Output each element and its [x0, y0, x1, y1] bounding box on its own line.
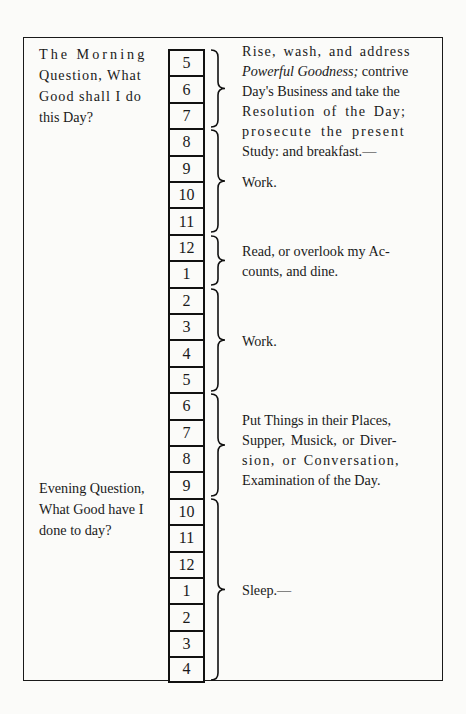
brace-icon [210, 498, 230, 681]
evening-question: Evening Question, What Good have I done … [39, 478, 164, 541]
hour-box: 12 [168, 551, 205, 577]
activity-line: contrive [358, 63, 408, 79]
hour-box: 6 [168, 392, 205, 418]
activity-line: Supper, Musick, or Diver- [242, 430, 435, 450]
morning-question-line: The Morning [39, 44, 157, 65]
bleed-through-text [20, 20, 446, 34]
hour-box: 12 [168, 234, 205, 260]
activity-line: Put Things in their Places, [242, 410, 435, 430]
hour-box: 3 [168, 313, 205, 339]
activity-line-italic: Powerful Goodness; [242, 63, 358, 79]
activity-line: Work. [242, 333, 277, 349]
hour-box: 10 [168, 181, 205, 207]
activity-line: Day's Business and take the [242, 81, 435, 101]
brace-icon [210, 393, 230, 497]
hour-box: 4 [168, 339, 205, 365]
brace-icon [210, 235, 230, 286]
hour-box: 4 [168, 656, 205, 682]
brace-icon [210, 288, 230, 392]
activity-line: Sleep.— [242, 582, 291, 598]
activity-morning: Rise, wash, and address Powerful Goodnes… [242, 41, 435, 161]
activity-line: Work. [242, 174, 277, 190]
activity-evening: Put Things in their Places, Supper, Musi… [242, 410, 435, 490]
activity-work-morning: Work. [242, 172, 435, 192]
hour-box: 3 [168, 630, 205, 656]
activity-line: Examination of the Day. [242, 470, 435, 490]
morning-question-line: this Day? [39, 107, 157, 128]
brace-icon [210, 129, 230, 233]
activity-line: Study: and breakfast.— [242, 141, 435, 161]
evening-question-line: What Good have I [39, 499, 164, 520]
evening-question-line: done to day? [39, 520, 164, 541]
hour-box: 5 [168, 366, 205, 392]
morning-question-line: Question, What [39, 65, 157, 86]
activity-line: Rise, wash, and address [242, 41, 435, 61]
hour-box: 5 [168, 49, 205, 75]
hour-box: 7 [168, 102, 205, 128]
activity-line: prosecute the present [242, 121, 435, 141]
hour-box: 8 [168, 128, 205, 154]
activity-read-dine: Read, or overlook my Ac- counts, and din… [242, 241, 435, 281]
activity-line: sion, or Conversation, [242, 450, 435, 470]
hour-box: 1 [168, 260, 205, 286]
hour-box: 9 [168, 155, 205, 181]
hour-box: 8 [168, 445, 205, 471]
hour-box: 7 [168, 419, 205, 445]
hour-box: 2 [168, 287, 205, 313]
hour-box: 9 [168, 471, 205, 497]
hour-box: 2 [168, 603, 205, 629]
hour-box: 11 [168, 524, 205, 550]
morning-question: The Morning Question, What Good shall I … [39, 44, 157, 128]
hour-box: 6 [168, 75, 205, 101]
hour-box: 10 [168, 498, 205, 524]
hour-box: 1 [168, 577, 205, 603]
activity-line: counts, and dine. [242, 261, 435, 281]
activity-work-afternoon: Work. [242, 331, 435, 351]
morning-question-line: Good shall I do [39, 86, 157, 107]
activity-line: Resolution of the Day; [242, 101, 435, 121]
brace-icon [210, 49, 230, 128]
evening-question-line: Evening Question, [39, 478, 164, 499]
activity-line: Read, or overlook my Ac- [242, 241, 435, 261]
activity-sleep: Sleep.— [242, 580, 435, 600]
hour-box: 11 [168, 207, 205, 233]
